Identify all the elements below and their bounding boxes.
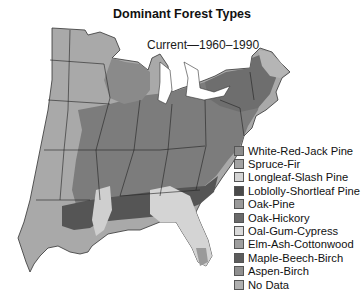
legend-swatch [234, 253, 244, 263]
legend-item: Maple-Beech-Birch [234, 251, 360, 264]
legend-label: Spruce-Fir [248, 158, 300, 170]
legend-label: Longleaf-Slash Pine [248, 171, 348, 183]
legend-swatch [234, 213, 244, 223]
legend-swatch [234, 159, 244, 169]
legend-item: Longleaf-Slash Pine [234, 171, 360, 184]
legend-swatch [234, 226, 244, 236]
legend-swatch [234, 186, 244, 196]
legend-item: Oal-Gum-Cypress [234, 224, 360, 237]
legend-swatch [234, 199, 244, 209]
legend-item: Aspen-Birch [234, 265, 360, 278]
legend-label: Loblolly-Shortleaf Pine [248, 185, 360, 197]
legend-label: Maple-Beech-Birch [248, 252, 343, 264]
legend-swatch [234, 280, 244, 290]
legend-item: White-Red-Jack Pine [234, 144, 360, 157]
legend-swatch [234, 266, 244, 276]
legend-label: Oal-Gum-Cypress [248, 225, 338, 237]
legend-label: Oak-Hickory [248, 212, 310, 224]
legend-swatch [234, 146, 244, 156]
legend: White-Red-Jack Pine Spruce-Fir Longleaf-… [234, 144, 360, 291]
legend-item: Loblolly-Shortleaf Pine [234, 184, 360, 197]
legend-item: Oak-Hickory [234, 211, 360, 224]
legend-item: Oak-Pine [234, 198, 360, 211]
legend-swatch [234, 172, 244, 182]
legend-label: No Data [248, 279, 289, 291]
legend-label: Aspen-Birch [248, 265, 309, 277]
legend-item: No Data [234, 278, 360, 291]
legend-item: Elm-Ash-Cottonwood [234, 238, 360, 251]
legend-item: Spruce-Fir [234, 157, 360, 170]
legend-label: Oak-Pine [248, 198, 295, 210]
legend-label: Elm-Ash-Cottonwood [248, 238, 354, 250]
region-north-woods [104, 58, 150, 104]
legend-swatch [234, 239, 244, 249]
legend-label: White-Red-Jack Pine [248, 145, 353, 157]
